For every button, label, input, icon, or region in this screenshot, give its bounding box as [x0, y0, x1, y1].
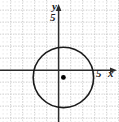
circle-center-point	[61, 75, 66, 80]
circle-graph-figure: y 5 5 x	[0, 0, 119, 122]
x-axis-tick-label-5: 5	[96, 68, 102, 79]
grid-minor	[0, 0, 119, 122]
x-axis-label: x	[108, 68, 114, 79]
y-axis-tick-label-5: 5	[50, 12, 56, 23]
coordinate-plane-svg	[0, 0, 119, 122]
